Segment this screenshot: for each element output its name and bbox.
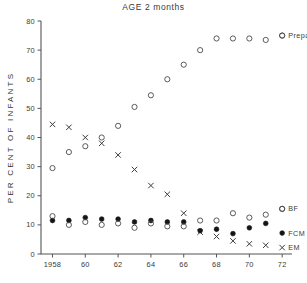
- x-axis-tick-label: 60: [81, 260, 90, 269]
- legend-entry-prepared: Prepared: [280, 31, 307, 40]
- data-point-open-circle: [263, 37, 268, 42]
- legend-entry-fcm: FCM: [280, 229, 305, 238]
- x-axis-tick-label: 66: [179, 260, 188, 269]
- data-point-filled-circle: [231, 231, 236, 236]
- data-point-x-marker: [66, 125, 71, 130]
- chart-figure: AGE 2 months 010203040506070801958606264…: [0, 0, 307, 283]
- data-point-open-circle: [50, 165, 55, 170]
- data-point-open-circle: [214, 218, 219, 223]
- data-point-x-marker: [132, 167, 137, 172]
- data-point-open-circle: [132, 104, 137, 109]
- y-axis-tick-label: 40: [26, 133, 35, 142]
- legend-label-bf: BF: [288, 204, 298, 213]
- series-prepared: [50, 33, 285, 171]
- data-point-open-circle: [99, 222, 104, 227]
- series-em: [50, 122, 269, 248]
- legend-label-prepared: Prepared: [288, 31, 307, 40]
- legend-entry-em: EM: [279, 243, 300, 252]
- data-point-x-marker: [83, 135, 88, 140]
- x-axis-tick-label: 70: [245, 260, 254, 269]
- data-point-open-circle: [214, 36, 219, 41]
- legend-label-fcm: FCM: [288, 229, 305, 238]
- y-axis-title: PER CENT OF INFANTS: [6, 72, 15, 203]
- data-point-x-marker: [247, 241, 252, 246]
- y-axis-tick-label: 0: [31, 250, 35, 259]
- data-point-open-circle: [66, 149, 71, 154]
- data-point-x-marker: [181, 210, 186, 215]
- data-point-x-marker: [115, 152, 120, 157]
- y-axis-tick-label: 80: [26, 17, 35, 26]
- data-point-filled-circle: [214, 227, 219, 232]
- data-point-open-circle: [198, 218, 203, 223]
- data-point-filled-circle: [247, 225, 252, 230]
- data-point-x-marker: [263, 243, 268, 248]
- legend-entry-bf: BF: [280, 204, 299, 213]
- data-point-open-circle: [247, 215, 252, 220]
- data-point-open-circle: [181, 62, 186, 67]
- axis-lines: [41, 21, 292, 254]
- y-axis-tick-label: 50: [26, 104, 35, 113]
- data-point-x-marker: [279, 245, 284, 250]
- y-axis-tick-label: 10: [26, 220, 35, 229]
- x-axis-tick-label: 72: [278, 260, 287, 269]
- scatter-plot: 01020304050607080195860626466687072PER C…: [0, 0, 307, 283]
- legend-label-em: EM: [288, 243, 300, 252]
- data-point-open-circle: [280, 206, 285, 211]
- data-point-open-circle: [132, 225, 137, 230]
- data-point-open-circle: [263, 212, 268, 217]
- x-axis-tick-label: 68: [212, 260, 221, 269]
- data-point-open-circle: [230, 36, 235, 41]
- x-axis-tick-label: 64: [147, 260, 156, 269]
- y-axis-tick-label: 60: [26, 75, 35, 84]
- data-point-x-marker: [50, 122, 55, 127]
- data-point-open-circle: [230, 211, 235, 216]
- x-axis-tick-label: 1958: [44, 260, 62, 269]
- data-point-x-marker: [99, 141, 104, 146]
- data-point-open-circle: [198, 48, 203, 53]
- data-point-filled-circle: [263, 221, 268, 226]
- data-point-x-marker: [230, 238, 235, 243]
- data-point-filled-circle: [99, 217, 104, 222]
- data-point-open-circle: [83, 144, 88, 149]
- data-point-x-marker: [165, 192, 170, 197]
- y-axis-tick-label: 70: [26, 46, 35, 55]
- y-axis-tick-label: 30: [26, 162, 35, 171]
- x-axis-tick-label: 62: [114, 260, 123, 269]
- y-axis-tick-label: 20: [26, 191, 35, 200]
- data-point-open-circle: [165, 77, 170, 82]
- data-point-open-circle: [148, 93, 153, 98]
- data-point-filled-circle: [132, 220, 137, 225]
- data-point-open-circle: [247, 36, 252, 41]
- data-point-filled-circle: [198, 228, 203, 233]
- data-point-open-circle: [116, 123, 121, 128]
- data-point-open-circle: [99, 135, 104, 140]
- data-point-x-marker: [148, 183, 153, 188]
- series-fcm: [50, 215, 268, 236]
- data-point-open-circle: [280, 33, 285, 38]
- data-point-x-marker: [214, 234, 219, 239]
- data-point-filled-circle: [280, 231, 285, 236]
